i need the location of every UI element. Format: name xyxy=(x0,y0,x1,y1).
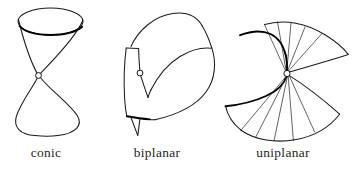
panel-uniplanar: uniplanar xyxy=(226,22,349,160)
conic-top-rim-front xyxy=(20,26,83,35)
uniplanar-hook-to-node xyxy=(286,56,287,71)
biplanar-crease-left-branch xyxy=(141,75,148,97)
uniplanar-hook-lower-branch xyxy=(226,76,287,106)
panel-biplanar: biplanar xyxy=(124,13,214,160)
caption-biplanar: biplanar xyxy=(134,145,181,160)
biplanar-crease-right-branch xyxy=(148,90,151,98)
singularity-types-diagram: conic xyxy=(0,0,361,173)
uniplanar-singular-node-icon xyxy=(284,70,290,76)
conic-lower-edge-right xyxy=(41,78,80,136)
uniplanar-generator-l4 xyxy=(288,76,293,140)
uniplanar-lower-fan-arc xyxy=(241,114,340,141)
biplanar-singular-node-icon xyxy=(137,70,143,76)
conic-lower-rim xyxy=(35,136,58,137)
figure-panel: conic xyxy=(0,0,361,173)
uniplanar-lower-fan-right-edge xyxy=(289,75,340,114)
uniplanar-lower-fan-left-edge xyxy=(226,106,242,130)
biplanar-inner-fold-curve xyxy=(151,48,212,90)
conic-singular-node-icon xyxy=(36,73,42,79)
biplanar-crease-upper-segment xyxy=(139,48,140,70)
biplanar-right-lobe-outer xyxy=(155,48,215,120)
caption-conic: conic xyxy=(31,145,62,160)
caption-uniplanar: uniplanar xyxy=(256,145,310,160)
panel-conic: conic xyxy=(16,8,83,160)
biplanar-lower-bold-edge xyxy=(127,116,150,119)
uniplanar-upper-fan-right-edge xyxy=(289,54,348,72)
conic-upper-ruling-right xyxy=(40,20,83,74)
conic-lower-edge-left xyxy=(16,78,38,136)
uniplanar-generator-u5 xyxy=(288,33,322,71)
biplanar-left-panel-left-edge xyxy=(124,48,127,116)
biplanar-upper-outer-edge xyxy=(131,13,202,46)
biplanar-cuspidal-spike xyxy=(131,117,140,136)
biplanar-upper-right-edge xyxy=(202,26,212,48)
uniplanar-hook-upper-branch xyxy=(240,32,286,56)
